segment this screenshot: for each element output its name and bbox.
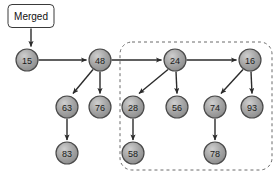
edge-group-children	[73, 70, 252, 94]
node-n76[interactable]: 76	[89, 96, 111, 118]
node-n93[interactable]: 93	[241, 96, 263, 118]
node-n48[interactable]: 48	[89, 49, 111, 71]
edge-16-74	[221, 70, 243, 94]
merged-callout-label: Merged	[14, 11, 48, 22]
node-n15[interactable]: 15	[16, 49, 38, 71]
edge-16-93	[251, 72, 252, 94]
node-n28[interactable]: 28	[122, 96, 144, 118]
merged-callout: Merged	[8, 5, 54, 47]
node-n74[interactable]: 74	[204, 96, 226, 118]
node-n83[interactable]: 83	[56, 142, 78, 164]
graph-svg: Merged 15	[0, 0, 278, 179]
edge-group-grandchildren	[67, 119, 215, 141]
node-n16[interactable]: 16	[239, 49, 261, 71]
diagram-canvas: Merged 15	[0, 0, 278, 179]
edge-24-28	[139, 70, 168, 94]
node-n58[interactable]: 58	[122, 142, 144, 164]
node-n63[interactable]: 63	[56, 96, 78, 118]
node-n56[interactable]: 56	[166, 96, 188, 118]
edge-48-63	[73, 70, 93, 94]
node-n78[interactable]: 78	[204, 142, 226, 164]
edge-24-56	[176, 72, 177, 94]
node-n24[interactable]: 24	[164, 49, 186, 71]
